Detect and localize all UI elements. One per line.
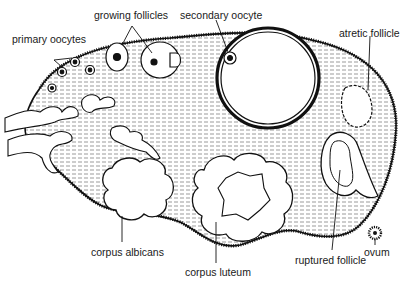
label-primary-oocytes: primary oocytes xyxy=(12,34,86,45)
label-atretic-follicle: atretic follicle xyxy=(339,28,400,39)
label-secondary-oocyte: secondary oocyte xyxy=(180,10,262,21)
label-corpus-albicans: corpus albicans xyxy=(91,247,164,258)
label-ruptured-follicle: ruptured follicle xyxy=(295,255,366,266)
corpus-luteum-icon xyxy=(192,153,292,241)
label-ovum: ovum xyxy=(364,247,390,258)
label-growing-follicles: growing follicles xyxy=(94,10,168,21)
secondary-oocyte-follicle-icon xyxy=(217,28,319,128)
ovum-icon xyxy=(369,227,381,239)
label-corpus-luteum: corpus luteum xyxy=(185,267,251,278)
